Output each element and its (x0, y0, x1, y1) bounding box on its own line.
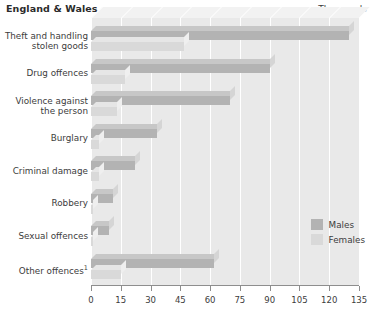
x-tick (121, 286, 122, 291)
bar-females (91, 172, 99, 181)
x-tick-label: 0 (88, 295, 93, 305)
legend-label-males: Males (329, 220, 354, 230)
x-tick (180, 286, 181, 291)
x-tick (359, 286, 360, 291)
x-tick-label: 120 (321, 295, 337, 305)
x-tick-label: 105 (291, 295, 307, 305)
x-tick (91, 286, 92, 291)
category-label: Robbery (0, 198, 88, 209)
x-tick (151, 286, 152, 291)
category-label: Criminal damage (0, 166, 88, 177)
x-tick-label: 90 (264, 295, 275, 305)
x-tick-label: 45 (175, 295, 186, 305)
x-tick (299, 286, 300, 291)
bar-females (91, 237, 93, 246)
x-tick (270, 286, 271, 291)
gridline (299, 18, 300, 286)
bar-females (91, 270, 121, 279)
category-label: Violence againstthe person (0, 96, 88, 117)
x-tick-label: 135 (351, 295, 367, 305)
category-label: Drug offences (0, 68, 88, 79)
legend: Males Females (311, 219, 365, 249)
x-tick-label: 15 (115, 295, 126, 305)
bar-females (91, 75, 125, 84)
category-label: Theft and handlingstolen goods (0, 31, 88, 52)
bar-females (91, 107, 117, 116)
legend-swatch-males-icon (311, 219, 323, 230)
bar-females (91, 42, 184, 51)
category-label: Other offences1 (0, 263, 88, 276)
x-axis-line (91, 285, 359, 286)
bar-females (91, 140, 99, 149)
x-tick-label: 30 (145, 295, 156, 305)
category-label: Sexual offences (0, 231, 88, 242)
chart-title: England & Wales (6, 3, 98, 14)
bar-females (91, 205, 93, 214)
x-tick (210, 286, 211, 291)
legend-swatch-females-icon (311, 234, 323, 245)
x-tick-label: 60 (205, 295, 216, 305)
x-tick-label: 75 (234, 295, 245, 305)
legend-label-females: Females (329, 235, 365, 245)
chart-root: England & Wales Thousands 01530456075901… (0, 0, 373, 309)
legend-item-females[interactable]: Females (311, 234, 365, 245)
x-tick (240, 286, 241, 291)
category-label: Burglary (0, 133, 88, 144)
plot-3d-top-face (91, 7, 370, 18)
x-tick (329, 286, 330, 291)
legend-item-males[interactable]: Males (311, 219, 365, 230)
